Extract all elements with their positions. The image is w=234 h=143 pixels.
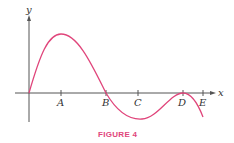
x-axis-arrow-icon xyxy=(210,91,216,95)
tick-label-e: E xyxy=(198,97,207,108)
figure-caption: FIGURE 4 xyxy=(98,130,138,139)
y-axis-arrow-icon xyxy=(27,15,31,21)
tick-label-d: D xyxy=(177,97,186,108)
tick-label-c: C xyxy=(134,97,142,108)
figure-diagram: y x A B C D E FIGURE 4 xyxy=(0,0,234,143)
y-axis-label: y xyxy=(25,4,32,15)
tick-label-b: B xyxy=(101,97,109,108)
tick-label-a: A xyxy=(56,97,64,108)
function-curve xyxy=(29,34,203,119)
x-axis-label: x xyxy=(218,87,224,98)
